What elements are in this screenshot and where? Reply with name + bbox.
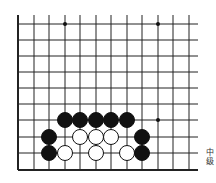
white-stone — [104, 130, 119, 145]
black-stone — [42, 146, 57, 161]
caption-text: 中 级 — [206, 148, 216, 166]
black-stone — [42, 130, 57, 145]
caption-line-2: 级 — [206, 157, 216, 166]
black-stone — [135, 130, 150, 145]
black-stone — [135, 146, 150, 161]
star-point — [156, 118, 160, 122]
white-stone — [89, 146, 104, 161]
black-stone — [104, 113, 119, 128]
black-stone — [120, 113, 135, 128]
black-stone — [58, 113, 73, 128]
star-point — [156, 22, 160, 26]
black-stone — [73, 113, 88, 128]
go-board-diagram — [0, 0, 216, 183]
white-stone — [120, 146, 135, 161]
white-stone — [73, 130, 88, 145]
caption-line-1: 中 — [206, 148, 216, 157]
star-point — [63, 22, 67, 26]
white-stone — [58, 146, 73, 161]
black-stone — [89, 113, 104, 128]
white-stone — [89, 130, 104, 145]
